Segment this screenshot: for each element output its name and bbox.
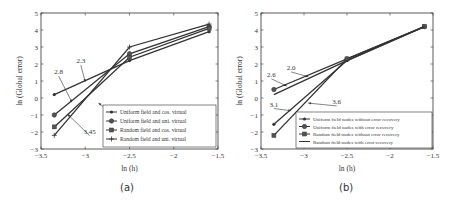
circle-marker [52,113,56,117]
x-tick-label: −1.5 [212,152,225,160]
slope-annotation: 2.8 [54,68,72,102]
legend-item: Uniform field nodes with error recovery [299,124,394,129]
y-tick-label: 0 [35,95,39,103]
y-axis-label: ln (Global error) [235,56,244,106]
square-marker [110,128,114,132]
svg-text:Random field and cos. virtual: Random field and cos. virtual [120,127,187,133]
slope-annotation: 2.6 [267,71,287,86]
y-tick-label: 2 [35,61,39,69]
y-tick-label: 2 [255,61,259,69]
x-axis-label: ln (h) [121,164,138,173]
dot-marker [128,59,131,62]
svg-text:2.6: 2.6 [267,71,276,79]
line-chart-a: −3.5−3−2.5−2−1.5−3−2−1012345ln (h)ln (Gl… [0,0,230,203]
y-tick-label: 4 [35,27,39,35]
y-tick-label: −3 [251,146,259,154]
slope-annotation: 2.0 [287,64,309,77]
svg-text:Random field nodes without err: Random field nodes without error recover… [313,132,400,137]
legend: Uniform field nodes without error recove… [296,112,432,148]
slope-annotation: 3.6 [308,98,341,106]
y-tick-label: −2 [251,129,259,137]
square-marker [272,133,276,137]
line-chart-b: −3.5−3−2.5−2−1.5−3−2−1012345ln (h)ln (Gl… [230,0,453,203]
legend-item: Random field nodes without error recover… [299,132,400,137]
svg-text:Uniform field and uni. virtual: Uniform field and uni. virtual [120,118,187,124]
slope-annotation: 3.1 [270,101,292,112]
y-axis-label: ln (Global error) [15,56,24,106]
dot-marker [272,123,275,126]
svg-text:3.6: 3.6 [332,98,341,106]
svg-text:2.3: 2.3 [76,57,85,65]
circle-marker [302,124,306,128]
y-tick-label: −1 [251,112,259,120]
svg-text:2.0: 2.0 [287,64,296,72]
y-tick-label: 5 [35,10,39,18]
y-tick-label: −1 [31,112,39,120]
x-tick-label: −2.5 [341,152,354,160]
svg-text:Random field and uni. virtual: Random field and uni. virtual [120,136,186,142]
series-line [272,25,426,126]
legend-item: Random field nodes with error recovery [299,140,394,145]
svg-text:Uniform field nodes without er: Uniform field nodes without error recove… [313,117,400,122]
x-tick-label: −3 [300,152,308,160]
svg-text:2.8: 2.8 [54,68,63,76]
square-marker [303,132,307,136]
svg-text:3.1: 3.1 [270,101,279,109]
dot-marker [208,30,211,33]
panel-label-b: (b) [339,182,353,193]
svg-text:Random field nodes with error: Random field nodes with error recovery [313,140,394,145]
square-marker [207,26,211,30]
legend-item: Uniform field nodes without error recove… [299,117,400,122]
y-tick-label: 0 [255,95,259,103]
legend: Uniform field and cos. virtualUniform fi… [103,105,216,147]
dot-marker [53,93,56,96]
slope-annotation: 2.3 [76,57,85,82]
x-axis-label: ln (h) [339,164,356,173]
square-marker [128,55,132,59]
series-line [52,24,211,117]
circle-marker [109,119,113,123]
y-tick-label: 1 [255,78,259,86]
x-tick-label: −2.5 [123,152,136,160]
y-tick-label: −2 [31,129,39,137]
chart-panel-b: −3.5−3−2.5−2−1.5−3−2−1012345ln (h)ln (Gl… [230,0,453,203]
slope-annotation: 3.45 [68,114,97,136]
circle-marker [272,87,276,91]
panel-label-a: (a) [120,182,134,193]
x-tick-label: −1.5 [427,152,440,160]
y-tick-label: −3 [31,146,39,154]
y-tick-label: 3 [35,44,39,52]
x-tick-label: −2 [170,152,178,160]
y-tick-label: 5 [255,10,259,18]
x-tick-label: −3 [82,152,90,160]
y-tick-label: 1 [35,78,39,86]
x-tick-label: −2 [386,152,394,160]
dot-marker [110,110,113,113]
svg-text:Uniform field nodes with error: Uniform field nodes with error recovery [313,125,394,130]
square-marker [52,125,56,129]
y-tick-label: 4 [255,27,259,35]
y-tick-label: 3 [255,44,259,52]
dot-marker [303,117,306,120]
chart-panel-a: −3.5−3−2.5−2−1.5−3−2−1012345ln (h)ln (Gl… [0,0,230,203]
svg-text:Uniform field and cos. virtual: Uniform field and cos. virtual [120,109,187,115]
